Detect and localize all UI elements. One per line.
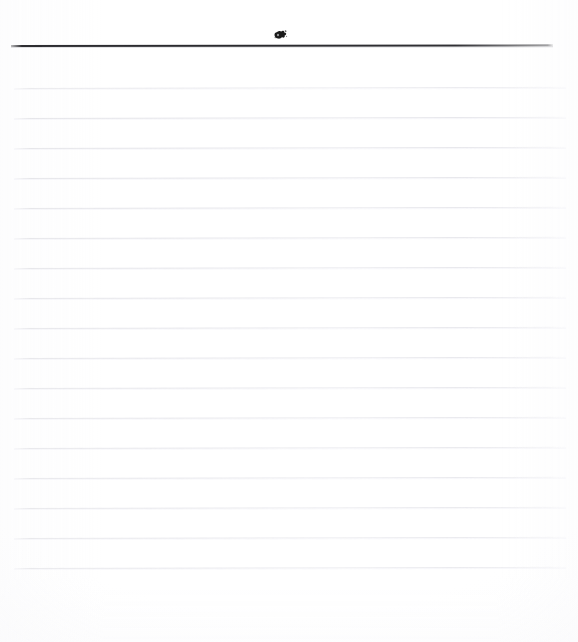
footer-margin-band <box>0 590 578 642</box>
ruled-line <box>14 207 566 209</box>
ruled-line <box>14 177 566 179</box>
header-margin-band <box>0 0 578 46</box>
ruled-line <box>14 267 566 269</box>
ruled-line <box>14 537 566 539</box>
ruled-line <box>14 147 566 149</box>
ruled-line <box>14 357 566 359</box>
ruled-line <box>14 567 566 569</box>
ruled-line <box>14 387 566 389</box>
ruled-line <box>14 117 566 119</box>
paper-grain <box>0 0 578 642</box>
ruled-line <box>14 297 566 299</box>
ink-blot-icon <box>273 28 289 42</box>
ruled-line <box>14 507 566 509</box>
header-divider-rule <box>11 44 553 47</box>
ruled-line <box>14 237 566 239</box>
paper-texture <box>0 0 578 642</box>
ruled-line <box>14 447 566 449</box>
ruled-line <box>14 87 566 89</box>
ruled-line <box>14 417 566 419</box>
notepad-page <box>0 0 578 642</box>
ruled-line <box>14 477 566 479</box>
ruled-lines-area <box>0 0 578 642</box>
ruled-line <box>14 327 566 329</box>
